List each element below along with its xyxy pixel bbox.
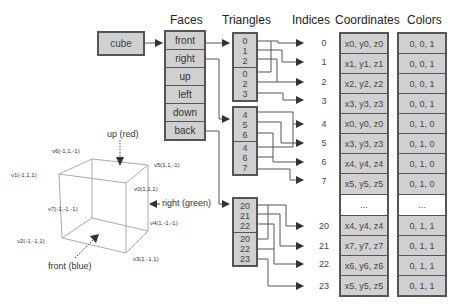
color-cell: 0, 0, 1 [399, 74, 445, 94]
triangles-header: Triangles [222, 13, 271, 27]
coordinate-cell: x5, y5, z5 [341, 174, 387, 195]
direction-up-label: up (red) [107, 129, 139, 139]
coordinate-cell: x2, y2, z2 [341, 74, 387, 94]
vertex-index: 0 [242, 36, 247, 46]
color-cell: 0, 1, 1 [399, 216, 445, 236]
vertex-index: 3 [242, 89, 247, 99]
face-back: back [166, 122, 204, 139]
index-label: 1 [312, 57, 336, 67]
color-cell: 0, 1, 1 [399, 256, 445, 276]
faces-header: Faces [170, 13, 203, 27]
vertex-label-v5: v5(1,1,-1) [154, 162, 180, 168]
triangle-group-right: 4 5 6 4 6 7 [232, 106, 258, 176]
coordinates-header: Coordinates [335, 13, 400, 27]
cube-box: cube [97, 31, 145, 56]
coordinate-cell: x4, y4, z4 [341, 154, 387, 174]
index-label: 2 [312, 77, 336, 87]
vertex-index: 0 [242, 69, 247, 79]
direction-front-label: front (blue) [48, 261, 92, 271]
coordinate-cell: x4, y4, z4 [341, 216, 387, 236]
color-cell: 0, 1, 0 [399, 154, 445, 174]
colors-header: Colors [407, 13, 442, 27]
index-label: 6 [312, 157, 336, 167]
index-label: 0 [312, 38, 336, 48]
triangle-1: 4 5 6 [234, 108, 256, 142]
vertex-index: 6 [242, 153, 247, 163]
coordinate-cell: x6, y6, z6 [341, 256, 387, 276]
vertex-index: 6 [242, 130, 247, 140]
coordinate-ellipsis: ... [341, 195, 387, 216]
index-label: 7 [312, 176, 336, 186]
vertex-label-v1: v1(-1,1,1) [11, 172, 37, 178]
coordinate-cell: x5, y5, z5 [341, 276, 387, 295]
index-label: 20 [312, 221, 336, 231]
index-label: 23 [312, 281, 336, 291]
vertex-index: 21 [240, 211, 250, 221]
vertex-index: 20 [240, 201, 250, 211]
vertex-index: 5 [242, 120, 247, 130]
face-up: up [166, 68, 204, 86]
vertex-index: 1 [242, 46, 247, 56]
coordinate-cell: x3, y3, z3 [341, 134, 387, 154]
vertex-index: 22 [240, 221, 250, 231]
color-cell: 0, 1, 0 [399, 174, 445, 195]
vertex-index: 4 [242, 143, 247, 153]
triangle-group-front: 0 1 2 0 2 3 [232, 32, 258, 102]
colors-list: 0, 0, 1 0, 0, 1 0, 0, 1 0, 0, 1 0, 1, 0 … [397, 32, 447, 297]
index-label: 3 [312, 96, 336, 106]
triangle-1: 0 1 2 [234, 34, 256, 68]
faces-list: front right up left down back [164, 30, 206, 141]
vertex-label-v4: v4(1,-1,-1) [150, 220, 178, 226]
vertex-index: 20 [240, 234, 250, 244]
coordinates-list: x0, y0, z0 x1, y1, z1 x2, y2, z2 x3, y3,… [339, 32, 389, 297]
vertex-index: 2 [242, 79, 247, 89]
color-cell: 0, 1, 0 [399, 134, 445, 154]
coordinate-cell: x7, y7, z7 [341, 236, 387, 256]
triangle-2: 0 2 3 [234, 68, 256, 100]
color-cell: 0, 1, 1 [399, 276, 445, 295]
triangle-2: 20 22 23 [234, 233, 256, 265]
vertex-index: 7 [242, 163, 247, 173]
coordinate-cell: x0, y0, z0 [341, 114, 387, 134]
vertex-label-v3: v3(1,-1,1) [133, 256, 159, 262]
triangle-group-back: 20 21 22 20 22 23 [232, 197, 258, 267]
vertex-index: 2 [242, 56, 247, 66]
vertex-label-v7: v7(-1,-1,-1) [48, 206, 78, 212]
triangle-1: 20 21 22 [234, 199, 256, 233]
vertex-label-v0: v0(1,1,1) [134, 186, 158, 192]
indices-header: Indices [292, 13, 330, 27]
color-cell: 0, 0, 1 [399, 34, 445, 54]
direction-right-label: right (green) [162, 198, 211, 208]
face-front: front [166, 32, 204, 50]
coordinate-cell: x0, y0, z0 [341, 34, 387, 54]
color-cell: 0, 1, 0 [399, 114, 445, 134]
index-label: 22 [312, 259, 336, 269]
vertex-label-v6: v6(-1,1,-1) [52, 148, 80, 154]
color-cell: 0, 0, 1 [399, 54, 445, 74]
face-left: left [166, 86, 204, 104]
color-ellipsis: ... [399, 195, 445, 216]
face-right: right [166, 50, 204, 68]
triangle-2: 4 6 7 [234, 142, 256, 174]
face-down: down [166, 104, 204, 122]
vertex-index: 4 [242, 110, 247, 120]
index-label: 4 [312, 119, 336, 129]
vertex-index: 23 [240, 254, 250, 264]
color-cell: 0, 0, 1 [399, 94, 445, 114]
vertex-label-v2: v2(-1,-1,1) [17, 238, 45, 244]
color-cell: 0, 1, 1 [399, 236, 445, 256]
index-label: 5 [312, 138, 336, 148]
index-label: 21 [312, 241, 336, 251]
coordinate-cell: x1, y1, z1 [341, 54, 387, 74]
coordinate-cell: x3, y3, z3 [341, 94, 387, 114]
vertex-index: 22 [240, 244, 250, 254]
